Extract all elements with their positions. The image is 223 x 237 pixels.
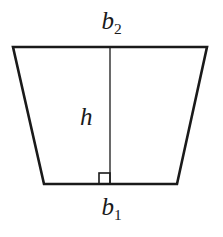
height-label-letter: h — [80, 103, 93, 130]
trapezoid-figure: b2 h b1 — [0, 0, 223, 237]
top-base-label-letter: b — [101, 7, 114, 34]
bottom-base-label-subscript: 1 — [114, 206, 122, 223]
bottom-base-label-letter: b — [101, 193, 114, 220]
bottom-base-label: b1 — [0, 194, 223, 219]
top-base-label: b2 — [0, 8, 223, 33]
top-base-label-subscript: 2 — [114, 20, 122, 37]
height-label: h — [80, 104, 93, 129]
